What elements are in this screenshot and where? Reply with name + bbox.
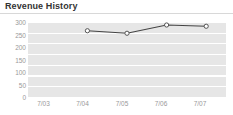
page-title: Revenue History: [5, 1, 78, 11]
series-polyline: [87, 25, 206, 33]
revenue-line-series: [28, 22, 226, 97]
chart-area: 300 250 200 150 100 50 0: [0, 14, 233, 115]
x-axis-tick-0: 7/03: [37, 100, 50, 107]
x-axis-labels: 7/03 7/04 7/05 7/06 7/07: [28, 100, 226, 112]
data-point-7/04[interactable]: [85, 29, 89, 33]
data-point-7/06[interactable]: [165, 23, 169, 27]
y-axis-tick-150: 150: [2, 57, 26, 64]
x-axis-tick-4: 7/07: [194, 100, 207, 107]
y-axis-tick-300: 300: [2, 19, 26, 26]
y-axis-labels: 300 250 200 150 100 50 0: [0, 22, 26, 97]
data-point-7/05[interactable]: [125, 31, 129, 35]
plot-area: [28, 22, 226, 97]
revenue-history-widget: Revenue History 300 250 200 150 100 50 0: [0, 0, 233, 115]
x-axis-tick-2: 7/05: [116, 100, 129, 107]
widget-header: Revenue History: [0, 0, 233, 14]
data-point-7/07[interactable]: [204, 24, 208, 28]
y-axis-tick-250: 250: [2, 32, 26, 39]
y-axis-tick-200: 200: [2, 44, 26, 51]
y-axis-tick-50: 50: [2, 82, 26, 89]
x-axis-tick-1: 7/04: [76, 100, 89, 107]
x-axis-tick-3: 7/06: [155, 100, 168, 107]
y-axis-tick-100: 100: [2, 69, 26, 76]
y-axis-tick-0: 0: [2, 94, 26, 101]
